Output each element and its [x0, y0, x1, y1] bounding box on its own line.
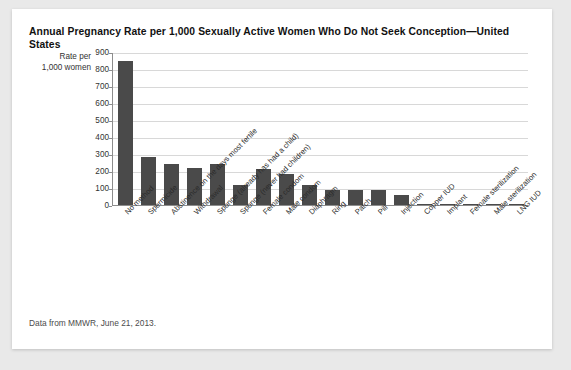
y-axis-tick-label: 300	[79, 150, 109, 159]
y-axis-tick-label: 900	[79, 48, 109, 57]
x-axis-label-slot: Spermicide	[136, 208, 159, 318]
y-axis-tick-label: 500	[79, 116, 109, 125]
bar-slot	[114, 53, 137, 205]
x-axis-label-slot: LNG IUD	[505, 208, 528, 318]
x-axis-label-slot: Abstinence on the days most fertile	[159, 208, 182, 318]
x-axis-label-slot: Injection	[390, 208, 413, 318]
x-axis-label-slot: Withdrawal	[182, 208, 205, 318]
x-axis-label-slot: Pill	[367, 208, 390, 318]
y-axis-tick-label: 800	[79, 65, 109, 74]
bar-slot	[436, 53, 459, 205]
bar-slot	[321, 53, 344, 205]
x-axis-label-slot: No method	[113, 208, 136, 318]
bar-slot	[137, 53, 160, 205]
source-note: Data from MMWR, June 21, 2013.	[29, 318, 156, 328]
x-axis-label-slot: Female condom	[251, 208, 274, 318]
x-axis-label-slot: Patch	[344, 208, 367, 318]
bar-slot	[459, 53, 482, 205]
y-axis-tick-label: 100	[79, 184, 109, 193]
x-axis-label-slot: Female sterilization	[459, 208, 482, 318]
x-axis-label-slot: Copper IUD	[413, 208, 436, 318]
x-axis-label-slot: Male condom	[274, 208, 297, 318]
x-axis-label-slot: Implant	[436, 208, 459, 318]
bar-slot	[367, 53, 390, 205]
x-axis-label-slot: Male sterilization	[482, 208, 505, 318]
y-axis-tick-label: 200	[79, 167, 109, 176]
y-axis-tick-label: 600	[79, 99, 109, 108]
y-axis-tick-labels: 0100200300400500600700800900	[78, 53, 109, 206]
x-axis-tick-labels: No methodSpermicideAbstinence on the day…	[113, 208, 528, 318]
bar-slot	[413, 53, 436, 205]
y-axis-tick-label: 0	[79, 201, 109, 210]
x-axis-label-slot: Sponge (never had children)	[228, 208, 251, 318]
chart-card: Annual Pregnancy Rate per 1,000 Sexually…	[12, 9, 552, 349]
bar-slot	[344, 53, 367, 205]
x-axis-label-slot: Diaphragm	[298, 208, 321, 318]
bar-slot	[390, 53, 413, 205]
bar[interactable]	[118, 61, 132, 206]
y-axis-tick-label: 700	[79, 82, 109, 91]
y-axis-tick-label: 400	[79, 133, 109, 142]
bar-slot	[160, 53, 183, 205]
x-axis-label-slot: Ring	[321, 208, 344, 318]
x-axis-label-slot: Sponge (already has had a child)	[205, 208, 228, 318]
